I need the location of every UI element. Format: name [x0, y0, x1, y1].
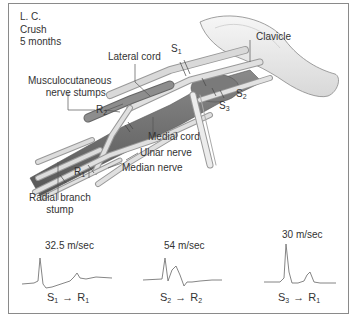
- time-since-injury: 5 months: [20, 36, 61, 49]
- arrow-icon: →: [62, 291, 73, 303]
- velocity-1: 32.5 m/sec: [45, 240, 94, 251]
- label-median-nerve: Median nerve: [122, 162, 183, 174]
- point-r2: R2: [96, 104, 107, 119]
- label-musculocutaneous: Musculocutaneous nerve stumps: [28, 75, 111, 99]
- velocity-2: 54 m/sec: [164, 240, 205, 251]
- label-medial-cord: Medial cord: [148, 131, 200, 143]
- point-s2: S2: [236, 88, 247, 103]
- patient-initials: L. C.: [20, 11, 61, 24]
- point-r1: R1: [74, 166, 85, 181]
- waveform-3: [264, 244, 336, 283]
- label-clavicle: Clavicle: [256, 31, 291, 43]
- arrow-icon: →: [293, 291, 304, 303]
- case-info: L. C. Crush 5 months: [20, 11, 61, 49]
- label-radial-branch-stump: Radial branch stump: [29, 192, 91, 216]
- conduction-path-3: S3→R1: [278, 291, 320, 304]
- conduction-path-2: S2→R2: [160, 291, 202, 304]
- point-s1: S1: [171, 43, 182, 58]
- injury-type: Crush: [20, 24, 61, 37]
- label-ulnar-nerve: Ulnar nerve: [140, 147, 192, 159]
- conduction-path-1: S1→R1: [47, 291, 89, 304]
- waveform-1: [22, 258, 112, 288]
- label-lateral-cord: Lateral cord: [108, 51, 161, 63]
- velocity-3: 30 m/sec: [282, 229, 323, 240]
- waveform-2: [143, 258, 222, 286]
- arrow-icon: →: [175, 291, 186, 303]
- point-s3: S3: [219, 100, 230, 115]
